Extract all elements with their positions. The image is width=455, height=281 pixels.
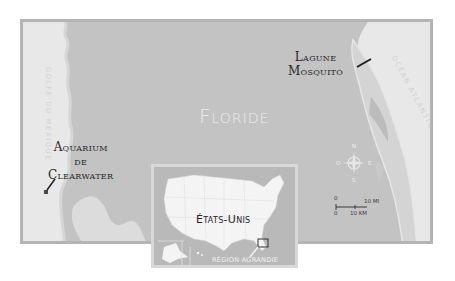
inset-country-label: États-Unis: [196, 213, 250, 226]
compass-rose-icon: [343, 152, 365, 174]
scale-mi-label: 10 MI: [364, 198, 379, 204]
aquarium-label: Aquarium de Clearwater: [48, 140, 113, 182]
compass-s: S: [352, 177, 356, 183]
compass-w: O: [336, 160, 340, 166]
compass-n: N: [352, 143, 356, 149]
alaska: [162, 243, 188, 263]
usa-inset-map: États-Unis Région agrandie: [151, 164, 298, 268]
aquarium-marker: [44, 190, 48, 194]
tampa-bay: [72, 197, 147, 244]
scale-mi-zero: 0: [334, 195, 338, 201]
scale-km-label: 10 KM: [350, 210, 367, 216]
inset-caption: Région agrandie: [212, 256, 278, 264]
lagoon-label: Lagune Mosquito: [288, 50, 343, 78]
map-title: Floride: [199, 104, 269, 128]
compass-e: E: [368, 160, 371, 166]
scale-km-zero: 0: [334, 210, 338, 216]
